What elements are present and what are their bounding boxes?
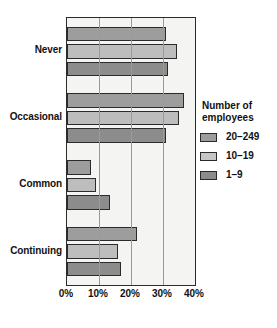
bar-common-20-249 — [67, 160, 91, 175]
legend-swatch-icon — [200, 171, 217, 180]
bar-continuing-20-249 — [67, 227, 137, 242]
bar-continuing-10-19 — [67, 244, 118, 259]
bar-occasional-1-9 — [67, 128, 166, 143]
legend-label: 10–19 — [226, 151, 254, 161]
plot-area — [66, 17, 196, 286]
y-axis-category-labels: NeverOccasionalCommonContinuing — [0, 17, 62, 286]
y-axis-label-occasional: Occasional — [0, 112, 62, 122]
legend-title-line-1: Number of — [202, 100, 276, 112]
legend-swatch-icon — [200, 133, 217, 142]
legend: Number of employees 20–24910–191–9 — [200, 100, 276, 186]
bar-occasional-20-249 — [67, 93, 184, 108]
bar-chart: NeverOccasionalCommonContinuing 0%10%20%… — [0, 0, 277, 328]
bar-common-10-19 — [67, 178, 96, 193]
legend-label: 20–249 — [226, 132, 259, 142]
x-tick-40: 40% — [184, 289, 204, 299]
legend-title: Number of employees — [200, 100, 276, 123]
legend-item-20-249: 20–249 — [200, 129, 276, 145]
y-axis-label-common: Common — [0, 179, 62, 189]
x-tick-20: 20% — [120, 289, 140, 299]
legend-item-10-19: 10–19 — [200, 148, 276, 164]
x-tick-10: 10% — [88, 289, 108, 299]
x-tick-30: 30% — [152, 289, 172, 299]
y-axis-label-continuing: Continuing — [0, 246, 62, 256]
legend-swatch-icon — [200, 152, 217, 161]
bar-never-10-19 — [67, 44, 177, 59]
x-tick-0: 0% — [59, 289, 73, 299]
legend-label: 1–9 — [226, 170, 243, 180]
y-axis-label-never: Never — [0, 45, 62, 55]
bar-common-1-9 — [67, 195, 110, 210]
legend-items: 20–24910–191–9 — [200, 129, 276, 183]
bar-never-20-249 — [67, 27, 166, 42]
x-axis-tick-labels: 0%10%20%30%40% — [66, 289, 196, 305]
legend-title-line-2: employees — [202, 112, 276, 124]
gridline — [99, 18, 100, 285]
bar-continuing-1-9 — [67, 262, 121, 277]
gridline — [131, 18, 132, 285]
legend-item-1-9: 1–9 — [200, 167, 276, 183]
gridline — [163, 18, 164, 285]
bar-never-1-9 — [67, 62, 168, 77]
